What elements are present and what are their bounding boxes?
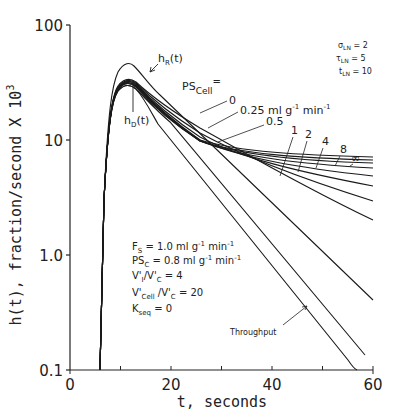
model-params: FS = 1.0 ml g-1 min-1 PSC = 0.8 ml g-1 m… <box>132 240 241 317</box>
svg-text:0: 0 <box>229 94 236 107</box>
svg-text:τLN = 5: τLN = 5 <box>336 54 366 64</box>
y-tick-0-1: 0.1 <box>39 362 63 380</box>
y-tick-100: 100 <box>34 17 63 35</box>
x-tick-20: 20 <box>161 376 180 394</box>
svg-text:0.25 ml g-1 min-1: 0.25 ml g-1 min-1 <box>240 103 330 117</box>
svg-text:0.5: 0.5 <box>266 115 284 128</box>
y-axis: 100 10 1.0 0.1 <box>34 17 70 380</box>
svg-text:σLN = 2: σLN = 2 <box>338 41 368 51</box>
x-axis-title: t, seconds <box>177 393 267 411</box>
label-hR: hR(t) <box>150 52 183 72</box>
svg-text:hD(t): hD(t) <box>124 114 149 129</box>
chart: 100 10 1.0 0.1 0 20 40 60 t, seconds h(t… <box>0 0 394 420</box>
curve-hR <box>100 64 373 370</box>
x-tick-40: 40 <box>262 376 281 394</box>
svg-text:Throughput: Throughput <box>229 328 276 337</box>
svg-text:4: 4 <box>322 135 329 148</box>
x-tick-0: 0 <box>65 376 75 394</box>
svg-text:PSCell=: PSCell= <box>182 76 221 96</box>
label-throughput: Throughput <box>229 306 307 337</box>
x-tick-60: 60 <box>363 376 382 394</box>
svg-text:V'Cell /V'C = 20: V'Cell /V'C = 20 <box>132 287 203 301</box>
svg-text:tLN = 10: tLN = 10 <box>339 67 372 77</box>
svg-text:Kseq = 0: Kseq = 0 <box>132 303 172 317</box>
svg-text:FS = 1.0 ml g-1 min-1: FS = 1.0 ml g-1 min-1 <box>132 240 234 255</box>
curves <box>100 64 373 370</box>
svg-text:1: 1 <box>291 124 298 137</box>
x-axis: 0 20 40 60 <box>65 366 382 394</box>
curve-throughput <box>100 85 357 370</box>
y-tick-1: 1.0 <box>39 247 63 265</box>
svg-text:2: 2 <box>305 128 312 141</box>
svg-text:PSC = 0.8 ml g-1 min-1: PSC = 0.8 ml g-1 min-1 <box>132 254 241 269</box>
y-tick-10: 10 <box>44 132 63 150</box>
svg-text:h(t), fraction/second X 103: h(t), fraction/second X 103 <box>5 85 25 326</box>
svg-text:hR(t): hR(t) <box>158 52 183 67</box>
svg-text:∞: ∞ <box>351 152 360 165</box>
label-ps-cell: PSCell= <box>182 76 221 96</box>
svg-text:V'I/V'C = 4: V'I/V'C = 4 <box>132 270 183 284</box>
lognormal-params: σLN = 2 τLN = 5 tLN = 10 <box>336 41 372 77</box>
ps-value-labels: 0 0.25 ml g-1 min-1 0.5 1 2 4 8 ∞ <box>200 94 360 176</box>
y-axis-title: h(t), fraction/second X 103 <box>5 85 25 326</box>
svg-text:8: 8 <box>340 143 347 156</box>
